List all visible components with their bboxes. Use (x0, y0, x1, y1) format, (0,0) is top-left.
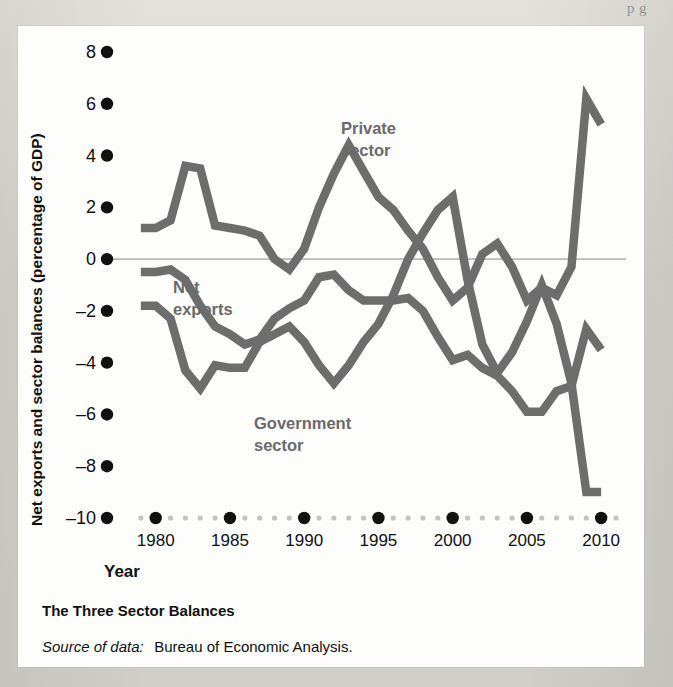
series-label-private-line1: Private (341, 119, 396, 137)
series-label-government-line1: Government (254, 414, 352, 432)
x-tick-dot-minor (272, 515, 277, 520)
x-tick-label-1985: 1985 (211, 531, 249, 550)
figure-card: Net exports and sector balances (percent… (18, 26, 644, 667)
x-axis-tick-labels: 1980198519901995200020052010 (137, 531, 620, 550)
x-tick-dot-minor (569, 515, 574, 520)
x-tick-dot-minor (465, 515, 470, 520)
series-label-netexports-line2: exports (173, 300, 233, 318)
x-tick-dot-major (446, 512, 458, 524)
y-tick-dot (101, 201, 113, 213)
y-axis-ticks: 86420–2–4–6–8–10 (66, 42, 113, 528)
caption-source-text: Bureau of Economic Analysis. (154, 638, 352, 655)
x-tick-dot-minor (331, 515, 336, 520)
y-tick-dot (101, 98, 113, 110)
caption-title: The Three Sector Balances (42, 602, 235, 619)
y-tick-label-neg6: –6 (76, 404, 96, 424)
x-tick-dot-minor (406, 515, 411, 520)
x-tick-dot-minor (391, 515, 396, 520)
x-tick-dot-minor (539, 515, 544, 520)
x-tick-dot-minor (420, 515, 425, 520)
y-tick-dot (101, 149, 113, 161)
y-tick-dot (101, 460, 113, 472)
x-tick-dot-minor (257, 515, 262, 520)
x-tick-dot-minor (212, 515, 217, 520)
x-tick-dot-minor (509, 515, 514, 520)
x-tick-dot-minor (138, 515, 143, 520)
x-tick-dot-minor (198, 515, 203, 520)
y-tick-label-8: 8 (86, 42, 96, 62)
y-tick-label-neg8: –8 (76, 456, 96, 476)
x-axis-ticks (138, 512, 618, 524)
x-tick-dot-major (372, 512, 384, 524)
x-tick-label-1980: 1980 (137, 531, 175, 550)
caption-source: Source of data: Bureau of Economic Analy… (42, 638, 353, 655)
y-tick-label-neg2: –2 (76, 301, 96, 321)
x-tick-dot-minor (480, 515, 485, 520)
x-tick-dot-major (149, 512, 161, 524)
x-tick-dot-major (521, 512, 533, 524)
x-tick-dot-minor (346, 515, 351, 520)
three-sector-balances-chart: Net exports and sector balances (percent… (18, 26, 644, 667)
series-line-government-sector (141, 197, 601, 492)
y-tick-label-2: 2 (86, 197, 96, 217)
x-tick-dot-minor (554, 515, 559, 520)
series-label-private-line2: sector (341, 141, 391, 159)
y-tick-label-neg4: –4 (76, 353, 96, 373)
y-axis-title: Net exports and sector balances (percent… (28, 133, 45, 526)
x-axis-title: Year (104, 562, 140, 581)
y-tick-dot (101, 253, 113, 265)
running-header-text: p g (0, 0, 673, 26)
y-tick-dot (101, 356, 113, 368)
caption-source-prefix: Source of data: (42, 638, 144, 655)
y-tick-dot (101, 46, 113, 58)
x-tick-dot-minor (495, 515, 500, 520)
x-tick-dot-minor (242, 515, 247, 520)
x-tick-dot-minor (435, 515, 440, 520)
x-tick-label-2005: 2005 (508, 531, 546, 550)
x-tick-dot-major (595, 512, 607, 524)
y-tick-label-4: 4 (86, 146, 96, 166)
y-tick-dot (101, 512, 113, 524)
x-tick-label-2010: 2010 (582, 531, 620, 550)
x-tick-dot-minor (287, 515, 292, 520)
x-tick-dot-minor (584, 515, 589, 520)
x-tick-label-1990: 1990 (285, 531, 323, 550)
x-tick-dot-minor (613, 515, 618, 520)
x-tick-dot-minor (183, 515, 188, 520)
x-tick-label-2000: 2000 (434, 531, 472, 550)
x-tick-dot-minor (316, 515, 321, 520)
y-tick-dot (101, 408, 113, 420)
y-tick-dot (101, 305, 113, 317)
series-label-netexports-line1: Net (173, 278, 200, 296)
y-tick-label-6: 6 (86, 94, 96, 114)
series-label-government-line2: sector (254, 436, 304, 454)
x-tick-dot-major (298, 512, 310, 524)
y-tick-label-neg10: –10 (66, 508, 96, 528)
x-tick-dot-minor (361, 515, 366, 520)
x-tick-label-1995: 1995 (360, 531, 398, 550)
chart-plot-area: Net exports and sector balances (percent… (18, 26, 644, 667)
x-tick-dot-minor (168, 515, 173, 520)
x-tick-dot-major (224, 512, 236, 524)
y-tick-label-0: 0 (86, 249, 96, 269)
